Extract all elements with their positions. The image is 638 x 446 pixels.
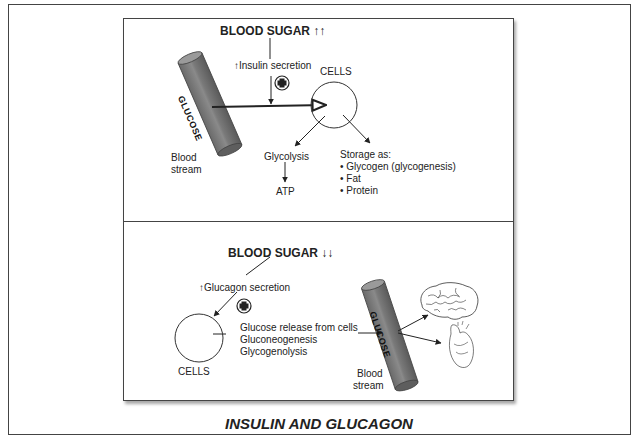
blood-stream-label-top-1: Blood: [171, 152, 197, 164]
release-item-glycogenolysis: Glycogenolysis: [240, 346, 307, 358]
figure-title: INSULIN AND GLUCAGON: [0, 415, 638, 432]
blood-stream-label-top-2: stream: [171, 164, 202, 176]
cells-label-bottom: CELLS: [178, 366, 210, 378]
storage-item-glycogen: • Glycogen (glycogenesis): [340, 161, 456, 173]
brain-icon: [421, 283, 478, 320]
blood-sugar-low-header: BLOOD SUGAR ↓↓: [228, 246, 333, 260]
storage-item-fat: • Fat: [340, 173, 361, 185]
blood-stream-label-bottom-1: Blood: [357, 368, 383, 380]
atp-label: ATP: [276, 186, 295, 198]
cell-circle-bottom: [175, 314, 223, 362]
cells-label-top: CELLS: [320, 66, 352, 78]
heart-icon: [449, 321, 473, 368]
glycolysis-label: Glycolysis: [264, 151, 309, 163]
stimulate-plus-icon-bottom: [237, 299, 251, 313]
insulin-secretion-label: ↑Insulin secretion: [234, 60, 311, 72]
blood-stream-label-bottom-2: stream: [353, 380, 384, 392]
glucagon-secretion-label: ↑Glucagon secretion: [199, 282, 290, 294]
storage-header: Storage as:: [340, 149, 391, 161]
stimulate-plus-icon: [275, 76, 289, 90]
release-item-glucose: Glucose release from cells: [240, 322, 358, 334]
release-item-gluconeogenesis: Gluconeogenesis: [240, 334, 317, 346]
storage-item-protein: • Protein: [340, 185, 378, 197]
diagram-graphics: [0, 0, 638, 446]
blood-sugar-high-header: BLOOD SUGAR ↑↑: [220, 24, 325, 38]
